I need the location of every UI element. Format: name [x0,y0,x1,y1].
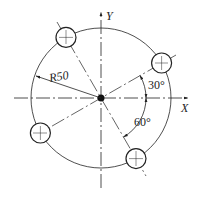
radius-label: R50 [47,68,69,85]
angle-60-label: 60° [134,115,151,129]
bolt-circle-diagram: X Y R50 30° 60° [0,0,201,198]
angle-30-label: 30° [148,78,165,92]
diagram-canvas: X Y R50 30° 60° [0,0,201,198]
hole-centerlines [33,22,176,176]
angle-30-arc [140,76,146,99]
x-axis-label: X [180,101,189,115]
y-axis-label: Y [106,9,114,23]
